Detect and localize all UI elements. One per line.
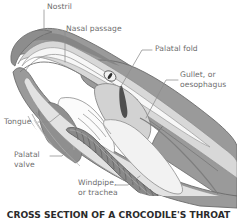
anatomy-figure: Nostril Nasal passage Palatal fold Gulle… — [0, 0, 237, 224]
label-tongue: Tongue — [4, 117, 31, 127]
crocodile-throat-illustration — [0, 0, 237, 224]
label-windpipe-trachea: Windpipe,or trachea — [78, 178, 118, 197]
label-palatal-valve: Palatalvalve — [14, 150, 40, 169]
label-nostril: Nostril — [47, 2, 72, 12]
label-palatal-fold: Palatal fold — [155, 44, 198, 54]
label-gullet-oesophagus: Gullet, oroesophagus — [180, 70, 226, 89]
label-nasal-passage: Nasal passage — [66, 24, 122, 34]
figure-caption: CROSS SECTION OF A CROCODILE'S THROAT — [0, 210, 237, 220]
